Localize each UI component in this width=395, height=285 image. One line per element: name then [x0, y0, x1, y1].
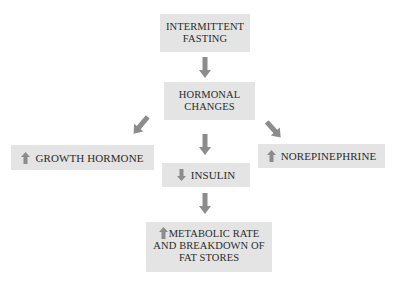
node-label: INTERMITTENT FASTING: [166, 21, 244, 45]
arrow-down-icon: [199, 134, 211, 156]
arrow-down-left-icon: [130, 113, 150, 139]
arrow-down-icon: [199, 193, 211, 215]
node-label: METABOLIC RATE AND BREAKDOWN OF FAT STOR…: [153, 228, 264, 264]
arrow-down-icon: [199, 57, 211, 79]
node-label: NOREPINEPHRINE: [281, 150, 377, 162]
node-label: HORMONAL CHANGES: [179, 89, 240, 113]
node-norepinephrine: NOREPINEPHRINE: [258, 144, 385, 168]
flowchart-diagram: INTERMITTENT FASTING HORMONAL CHANGES: [0, 0, 395, 285]
node-growth-hormone: GROWTH HORMONE: [11, 145, 154, 170]
node-insulin: INSULIN: [162, 163, 250, 187]
node-label: GROWTH HORMONE: [35, 152, 143, 164]
node-intermittent-fasting: INTERMITTENT FASTING: [160, 14, 250, 52]
node-metabolic-rate: METABOLIC RATE AND BREAKDOWN OF FAT STOR…: [146, 222, 272, 272]
up-arrow-icon: [267, 150, 276, 162]
arrow-down-right-icon: [264, 118, 284, 142]
node-label: INSULIN: [191, 169, 236, 181]
down-arrow-icon: [177, 169, 186, 181]
up-arrow-icon: [159, 227, 168, 239]
node-hormonal-changes: HORMONAL CHANGES: [164, 82, 255, 120]
up-arrow-icon: [21, 152, 30, 164]
